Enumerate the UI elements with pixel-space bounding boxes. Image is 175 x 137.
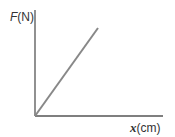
data-line xyxy=(35,28,98,116)
y-axis-label: F(N) xyxy=(10,10,34,24)
x-axis-label: x(cm) xyxy=(130,120,161,136)
force-extension-chart: F(N) x(cm) xyxy=(0,0,175,137)
x-axis-unit: (cm) xyxy=(137,121,161,135)
y-axis-unit: (N) xyxy=(17,10,34,24)
